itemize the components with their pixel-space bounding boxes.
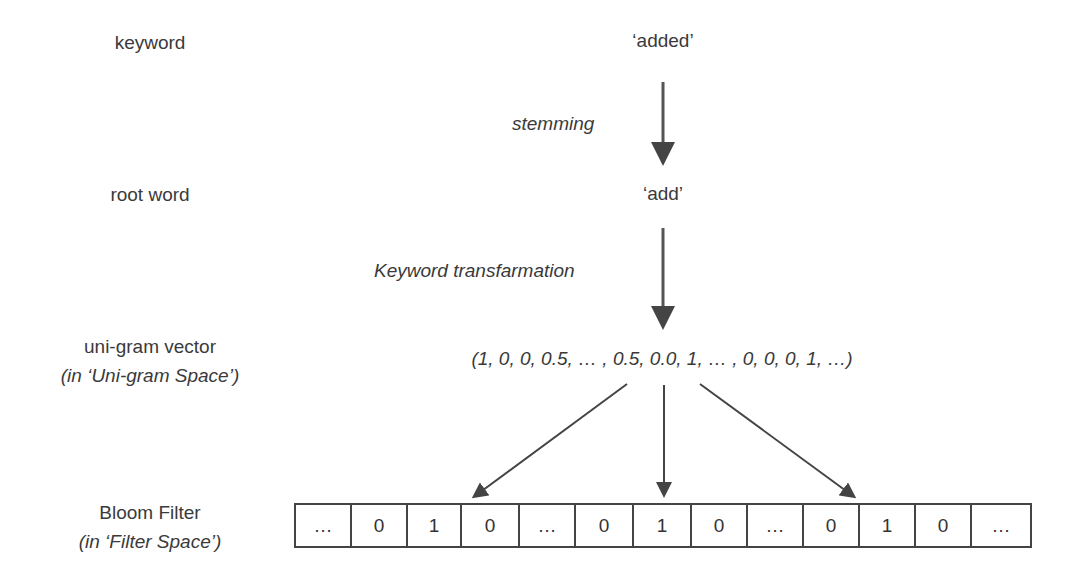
- bloom-cell: …: [972, 505, 1030, 546]
- bloom-cell: 0: [804, 505, 860, 546]
- bloom-cell: …: [748, 505, 804, 546]
- bloom-cell: 0: [576, 505, 634, 546]
- bloom-cell: 0: [462, 505, 520, 546]
- bloom-cell: 0: [916, 505, 972, 546]
- bloom-cell: 1: [860, 505, 916, 546]
- bloom-cell: …: [520, 505, 576, 546]
- bloom-cell: 1: [634, 505, 692, 546]
- bloom-cell: 1: [408, 505, 462, 546]
- arrow-to-cell-right: [700, 384, 853, 496]
- bloom-cell: 0: [352, 505, 408, 546]
- bloom-cell: 0: [692, 505, 748, 546]
- flow-arrows: [0, 0, 1067, 586]
- bloom-cell: …: [296, 505, 352, 546]
- arrow-to-cell-left: [475, 384, 627, 496]
- bloom-filter-array: … 0 1 0 … 0 1 0 … 0 1 0 …: [294, 503, 1032, 548]
